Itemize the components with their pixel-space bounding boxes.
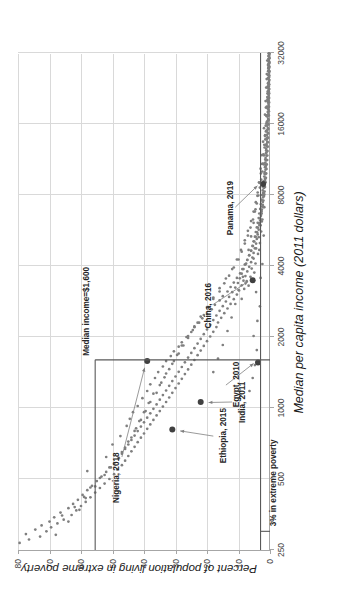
data-point — [40, 524, 43, 527]
scatter-chart-figure: Median income=$1,6003% in extreme povert… — [0, 0, 343, 603]
data-point-highlighted — [250, 277, 256, 283]
data-point — [229, 286, 232, 289]
data-point — [171, 380, 174, 383]
data-point — [257, 236, 260, 239]
data-point — [140, 436, 143, 439]
data-point — [34, 528, 37, 531]
data-point — [250, 261, 253, 264]
data-point — [218, 309, 221, 312]
x-axis-tick-label: 4000 — [276, 257, 286, 276]
data-point — [133, 434, 136, 437]
arrow-head-china — [244, 282, 248, 286]
data-point — [105, 456, 108, 459]
data-point — [218, 290, 221, 293]
y-axis-tick — [239, 550, 240, 554]
data-point — [267, 77, 270, 80]
data-point — [247, 234, 250, 237]
data-point — [143, 421, 146, 424]
data-layer — [18, 53, 270, 550]
data-point — [261, 200, 264, 203]
data-point — [180, 377, 183, 380]
data-point — [257, 226, 260, 229]
data-point — [86, 470, 89, 473]
data-point — [209, 335, 212, 338]
data-point — [243, 242, 246, 245]
data-point — [155, 391, 158, 394]
x-axis-tick-label: 8000 — [276, 186, 286, 205]
data-point — [193, 325, 196, 328]
data-point — [133, 430, 136, 433]
data-point — [250, 220, 253, 223]
data-point — [267, 92, 270, 95]
x-axis-tick-label: 16000 — [276, 112, 286, 136]
data-point — [163, 376, 166, 379]
data-point — [95, 480, 98, 483]
data-point — [264, 165, 267, 168]
data-point — [157, 371, 160, 374]
data-point — [252, 210, 255, 213]
data-point — [177, 382, 180, 385]
data-point — [158, 410, 161, 413]
data-point — [212, 371, 215, 374]
x-axis-tick-label: 250 — [276, 543, 286, 557]
data-point — [221, 305, 224, 308]
data-point — [190, 352, 193, 355]
data-point — [168, 384, 171, 387]
data-point — [256, 320, 259, 323]
data-point — [263, 193, 266, 196]
data-point — [149, 412, 152, 415]
data-point — [171, 391, 174, 394]
data-point — [244, 275, 247, 278]
data-point — [152, 392, 155, 395]
data-point — [267, 55, 270, 58]
data-point — [255, 349, 258, 352]
data-point — [146, 416, 149, 419]
data-point — [136, 441, 139, 444]
data-point — [234, 303, 237, 306]
data-point — [263, 172, 266, 175]
data-point — [265, 137, 268, 140]
data-point — [267, 132, 270, 135]
data-point — [221, 344, 224, 347]
data-point — [265, 151, 268, 154]
data-point — [177, 370, 180, 373]
data-point — [199, 349, 202, 352]
data-point — [238, 289, 241, 292]
data-point — [77, 498, 80, 501]
data-point-highlighted — [169, 427, 175, 433]
data-point — [28, 538, 31, 541]
data-point — [103, 474, 106, 477]
data-point — [226, 290, 229, 293]
data-point — [225, 300, 228, 303]
data-point — [184, 373, 187, 376]
data-point — [232, 281, 235, 284]
data-point — [169, 355, 172, 358]
data-point — [265, 73, 268, 76]
data-point — [265, 144, 268, 147]
data-point — [146, 390, 149, 393]
data-point — [45, 530, 48, 533]
data-point — [162, 405, 165, 408]
leader-line-nigeria — [122, 368, 145, 457]
data-point — [254, 235, 257, 238]
data-point — [264, 100, 267, 103]
data-point — [190, 363, 193, 366]
data-point — [261, 204, 264, 207]
data-point — [241, 268, 244, 271]
data-point — [174, 387, 177, 390]
data-point — [180, 344, 183, 347]
data-point — [265, 149, 268, 152]
data-point — [267, 82, 270, 85]
data-point — [255, 247, 258, 250]
data-point — [61, 514, 64, 517]
data-point — [252, 335, 255, 338]
annotation-median-income: Median income=$1,600 — [82, 267, 91, 356]
data-point — [262, 206, 265, 209]
x-axis-tick — [270, 478, 274, 479]
data-point — [187, 368, 190, 371]
x-axis-tick — [270, 194, 274, 195]
data-point — [135, 427, 138, 430]
data-point — [236, 293, 239, 296]
data-point — [176, 354, 179, 357]
data-point — [168, 396, 171, 399]
